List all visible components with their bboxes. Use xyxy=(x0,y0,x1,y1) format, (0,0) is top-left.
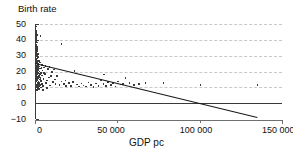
y-tick-label: 10 xyxy=(0,83,26,92)
x-axis-line xyxy=(35,120,282,121)
x-tick-mark xyxy=(35,120,36,124)
y-tick-label: 0 xyxy=(0,99,26,108)
x-tick-label: 150 000 xyxy=(262,126,293,135)
scatter-chart-figure: Birth rate −1001020304050 050 000100 000… xyxy=(0,0,293,157)
y-tick-label: 30 xyxy=(0,51,26,60)
x-axis-label: GDP pc xyxy=(0,137,293,148)
x-tick-mark xyxy=(200,120,201,123)
x-tick-mark xyxy=(282,120,283,124)
x-tick-label: 100 000 xyxy=(180,126,213,135)
plot-area xyxy=(35,24,282,119)
y-tick-label: 40 xyxy=(0,35,26,44)
x-tick-mark xyxy=(117,120,118,123)
trend-line xyxy=(35,18,293,133)
x-axis-tick-labels: 050 000100 000150 000 xyxy=(0,122,293,134)
y-tick-label: 50 xyxy=(0,20,26,29)
y-tick-label: 20 xyxy=(0,67,26,76)
x-tick-label: 0 xyxy=(37,126,42,135)
x-tick-label: 50 000 xyxy=(97,126,125,135)
